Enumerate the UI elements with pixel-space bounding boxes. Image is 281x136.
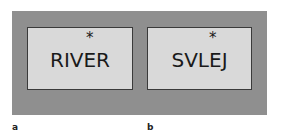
word-box-b: * SVLEJ — [147, 27, 252, 90]
panel-label-b: b — [147, 122, 153, 132]
panel-label-a: a — [12, 122, 18, 132]
word-b: SVLEJ — [148, 48, 251, 72]
fixation-asterisk-a: * — [86, 31, 94, 46]
gray-background-panel: * RIVER * SVLEJ — [12, 11, 267, 115]
word-a: RIVER — [28, 48, 132, 72]
word-box-a: * RIVER — [27, 27, 133, 90]
fixation-asterisk-b: * — [209, 31, 217, 46]
